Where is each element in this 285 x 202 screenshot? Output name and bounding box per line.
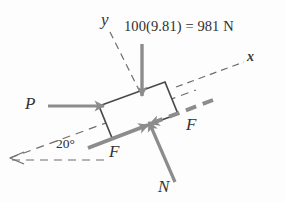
- applied-force-label: P: [25, 95, 35, 112]
- free-body-diagram-figure: y x 100(9.81) = 981 N P F F N 20°: [0, 0, 285, 202]
- friction-lower-label: F: [109, 143, 119, 160]
- y-axis-label: y: [101, 11, 109, 28]
- friction-upper-label: F: [186, 116, 196, 133]
- y-axis-dashed-line: [110, 32, 140, 92]
- weight-label: 100(9.81) = 981 N: [124, 19, 234, 34]
- x-axis-dashed-line: [176, 62, 244, 87]
- normal-force-N-arrow: [149, 122, 175, 182]
- incline-angle-label: 20°: [56, 137, 75, 151]
- x-axis-label: x: [247, 50, 254, 64]
- normal-force-label: N: [158, 178, 169, 195]
